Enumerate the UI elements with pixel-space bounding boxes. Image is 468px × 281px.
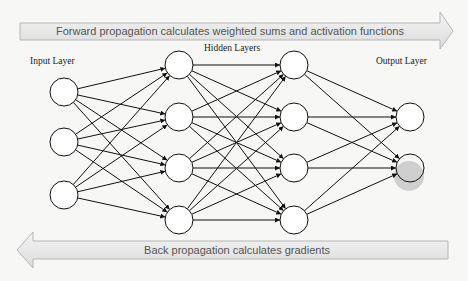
hidden-2-node: [280, 206, 308, 234]
hidden-2-node: [280, 51, 308, 79]
connection-line: [78, 145, 166, 165]
connection-line: [78, 198, 166, 217]
output-layer-label: Output Layer: [376, 56, 428, 66]
neural-network-diagram: Forward propagation calculates weighted …: [0, 0, 468, 281]
hidden-1-node: [165, 206, 193, 234]
connections: [73, 65, 399, 220]
hidden-1-node: [165, 154, 193, 182]
connection-line: [76, 125, 168, 187]
output-node: [396, 103, 424, 131]
back-propagation-arrow: Back propagation calculates gradients: [17, 232, 448, 268]
back-arrow-label: Back propagation calculates gradients: [144, 244, 330, 256]
connection-line: [307, 71, 397, 112]
input-node: [50, 78, 78, 106]
hidden-1-node: [165, 51, 193, 79]
hidden-layers-label: Hidden Layers: [204, 43, 260, 53]
input-node: [50, 181, 78, 209]
forward-arrow-label: Forward propagation calculates weighted …: [56, 25, 404, 37]
connection-line: [73, 75, 169, 184]
input-layer-label: Input Layer: [30, 56, 75, 66]
connection-line: [78, 68, 166, 89]
connection-line: [78, 171, 166, 192]
connection-line: [78, 95, 166, 114]
connection-line: [76, 73, 168, 134]
hidden-2-node: [280, 103, 308, 131]
hidden-2-node: [280, 154, 308, 182]
connection-line: [307, 174, 397, 215]
hidden-1-node: [165, 103, 193, 131]
input-node: [50, 128, 78, 156]
